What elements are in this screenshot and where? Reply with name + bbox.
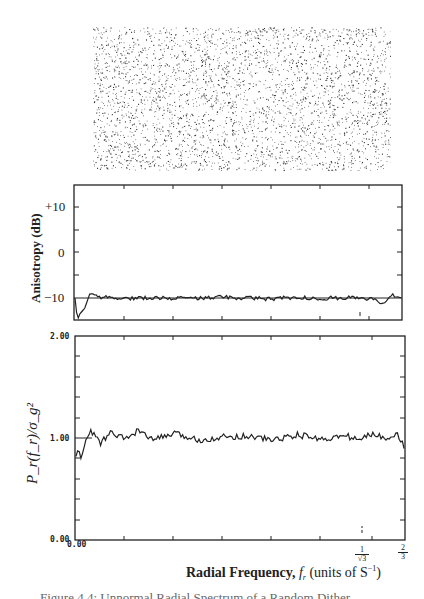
anisotropy-tick-0: 0 xyxy=(58,245,65,261)
x-axis-label-close: ) xyxy=(376,565,381,580)
spectrum-tick-2: 2.00 xyxy=(50,332,69,341)
frac1-denominator: √3 xyxy=(355,555,369,563)
x-axis-label-bold: Radial Frequency, xyxy=(186,565,295,580)
anisotropy-y-axis-label: Anisotropy (dB) xyxy=(28,213,44,303)
spectrum-y-axis-label: P_r(f_r)/σ_g² xyxy=(24,403,41,484)
x-axis-label: Radial Frequency, fr (units of S−1) xyxy=(186,564,381,582)
x-tick-one-over-root-three: 1 √3 xyxy=(355,546,369,563)
figure-caption: Figure 4.4: Unnormal Radial Spectrum of … xyxy=(40,590,350,599)
anisotropy-tick-plus10: +10 xyxy=(45,199,65,215)
spectrum-series-line xyxy=(76,429,404,459)
x-axis-label-subscript: r xyxy=(303,573,306,582)
spectrum-y-axis-label-text: P_r(f_r)/σ_g² xyxy=(24,403,40,484)
x-tick-two-thirds: 2 3 xyxy=(398,544,408,561)
anisotropy-tick-minus10: −10 xyxy=(44,290,64,306)
spectrum-x-tick-0: 0.00 xyxy=(67,540,86,549)
x-axis-label-units: (units of S xyxy=(309,565,367,580)
frac2-denominator: 3 xyxy=(398,553,408,561)
spectrum-tick-1: 1.00 xyxy=(50,434,69,443)
